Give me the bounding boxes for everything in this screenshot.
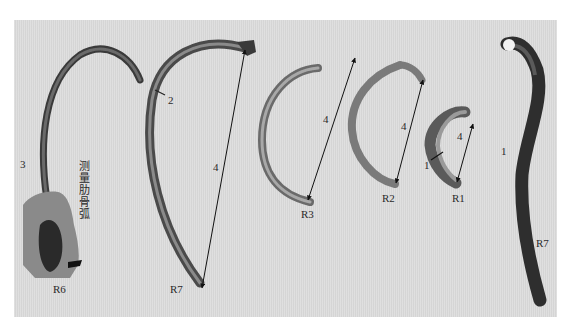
measure-label-r1-1: 1 xyxy=(424,160,430,171)
measure-label-r3-4: 4 xyxy=(323,114,329,125)
specimen-label-r7-left: R7 xyxy=(170,284,183,295)
specimen-label-r6: R6 xyxy=(53,284,66,295)
measure-label-r7-4: 4 xyxy=(213,162,219,173)
measure-label-r1-4: 4 xyxy=(457,131,463,142)
measure-label-r6-3: 3 xyxy=(20,159,26,170)
rib-r1 xyxy=(430,112,473,183)
measure-label-r7-right-1: 1 xyxy=(501,146,507,157)
hand xyxy=(23,192,82,278)
measure-label-r7-2: 2 xyxy=(168,95,174,106)
rib-r7-left xyxy=(150,40,256,288)
rib-r2 xyxy=(352,65,423,184)
specimen-label-r7-right: R7 xyxy=(536,238,549,249)
rib-r6 xyxy=(43,49,140,200)
specimen-label-r3: R3 xyxy=(301,209,314,220)
specimen-label-r2: R2 xyxy=(382,193,395,204)
vertical-caption: 测量肋骨弧 xyxy=(78,160,89,220)
measure-label-r2-4: 4 xyxy=(401,121,407,132)
rib-r3 xyxy=(262,58,355,202)
rib-r7-right xyxy=(503,39,540,300)
specimen-label-r1: R1 xyxy=(452,193,465,204)
